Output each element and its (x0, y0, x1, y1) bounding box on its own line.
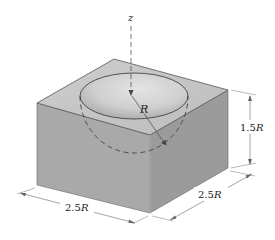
height-ext-bottom (231, 163, 256, 168)
width-label: 2.5R (65, 202, 89, 213)
radius-label: R (139, 103, 148, 116)
width-ext-left (17, 188, 35, 194)
depth-label: 2.5R (198, 189, 222, 200)
depth-arrow-left-icon (170, 216, 177, 221)
block-diagram: z R 1.5R 2.5R 2.5R (0, 0, 275, 240)
width-arrow-right-icon (129, 220, 136, 224)
height-label: 1.5R (240, 122, 264, 133)
height-arrow-top-icon (248, 95, 252, 101)
height-ext-top (231, 90, 256, 95)
depth-ext-right (230, 171, 255, 176)
z-axis-label: z (127, 12, 134, 23)
width-arrow-left-icon (20, 193, 26, 197)
bowl-rim (80, 73, 188, 119)
depth-ext-left (152, 216, 173, 221)
